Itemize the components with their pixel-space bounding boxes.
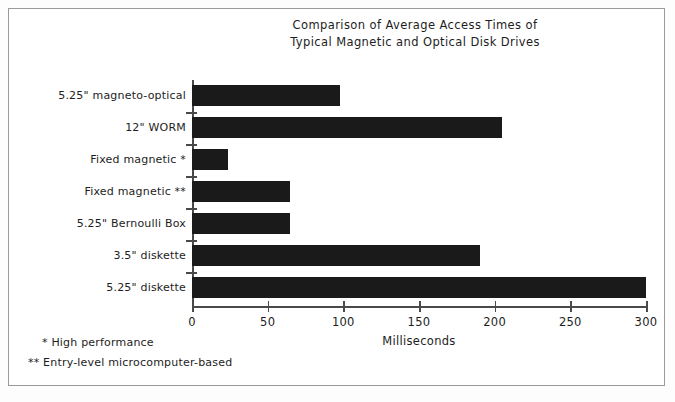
category-label: 5.25" diskette [11,277,186,298]
bar [192,213,290,234]
x-axis-tick [192,301,194,312]
category-label: Fixed magnetic ** [11,181,186,202]
bar [192,277,646,298]
category-label: 5.25" Bernoulli Box [11,213,186,234]
x-axis-tick [646,301,648,312]
x-axis-tick-label: 150 [389,315,449,329]
x-axis-tick [268,301,270,312]
x-axis-tick-label: 250 [540,315,600,329]
category-label: Fixed magnetic * [11,149,186,170]
bar [192,149,228,170]
footnote-entry-level: ** Entry-level microcomputer-based [28,353,232,373]
footnote-high-performance: * High performance [28,333,232,353]
category-label: 5.25" magneto-optical [11,85,186,106]
x-axis-title: Milliseconds [339,334,499,348]
y-axis-tick [186,144,197,146]
footnotes-block: * High performance ** Entry-level microc… [28,333,232,373]
y-axis-tick [186,240,197,242]
x-axis-tick-label: 300 [616,315,675,329]
bar [192,85,340,106]
x-axis-tick-label: 100 [313,315,373,329]
y-axis-tick [186,272,197,274]
bar [192,117,502,138]
x-axis-tick-label: 0 [162,315,222,329]
chart-title: Comparison of Average Access Times of Ty… [205,17,625,51]
y-axis-tick [186,208,197,210]
x-axis-tick [495,301,497,312]
chart-figure: Comparison of Average Access Times of Ty… [0,0,675,402]
y-axis-tick [186,176,197,178]
x-axis-tick [570,301,572,312]
x-axis-tick [343,301,345,312]
bar [192,181,290,202]
category-label: 12" WORM [11,117,186,138]
x-axis-tick [419,301,421,312]
category-label: 3.5" diskette [11,245,186,266]
plot-area [192,80,646,305]
x-axis-tick-label: 50 [238,315,298,329]
category-axis-labels: 5.25" magneto-optical12" WORMFixed magne… [8,80,186,307]
x-axis-tick-label: 200 [465,315,525,329]
bar [192,245,480,266]
y-axis-tick [186,112,197,114]
